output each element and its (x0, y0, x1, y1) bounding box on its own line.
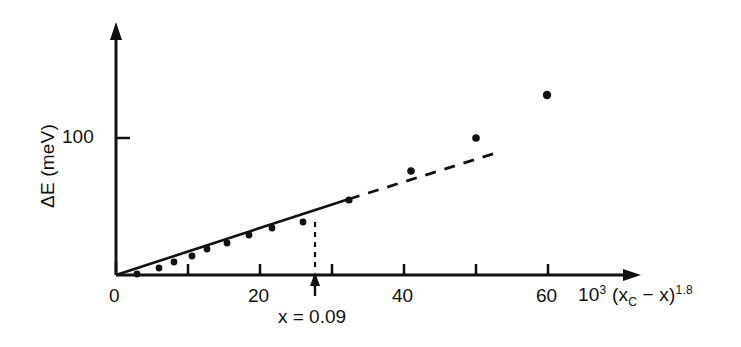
y-axis-title: ΔE (meV) (37, 96, 59, 236)
y-tick-label-100: 100 (62, 126, 94, 148)
x-axis (116, 262, 641, 281)
x-tick-label-0: 0 (109, 285, 120, 307)
data-point (269, 225, 276, 232)
annotation-x-value: x = 0.09 (257, 306, 367, 328)
data-point (189, 253, 196, 260)
x-axis-title-variable-sub: C (628, 295, 637, 309)
data-point (472, 134, 480, 142)
data-point (345, 196, 352, 203)
data-point (300, 219, 307, 226)
x-axis-title-group-exponent: 1.8 (676, 283, 693, 297)
fit-line-dashed (349, 152, 499, 199)
figure-plot: ΔE (meV) 100 0 20 40 60 103 (xC − x)1.8 … (0, 0, 741, 347)
data-point (224, 240, 231, 247)
x-axis-title-group: (x (612, 284, 628, 305)
x-tick-label-60: 60 (536, 285, 557, 307)
x-axis-title-operator-text: − x) (643, 284, 676, 305)
data-point (171, 259, 178, 266)
x-tick-label-40: 40 (392, 285, 413, 307)
data-point (204, 246, 211, 253)
y-axis (110, 22, 130, 275)
data-point (543, 91, 551, 99)
data-point (246, 232, 253, 239)
data-point (156, 265, 163, 272)
data-point (407, 167, 415, 175)
x-axis-title-base: 10 (578, 284, 600, 305)
x-axis-title: 103 (xC − x)1.8 (578, 283, 693, 309)
data-point (134, 271, 141, 278)
x-tick-label-20: 20 (248, 285, 269, 307)
